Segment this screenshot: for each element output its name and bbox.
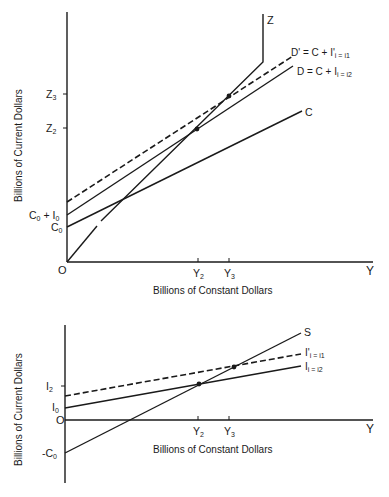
- i2-label: I2: [46, 381, 53, 393]
- equilibrium-point-y2: [195, 127, 200, 132]
- bottom-y2-label: Y2: [193, 426, 204, 438]
- top-x-axis-title: Billions of Constant Dollars: [153, 285, 273, 296]
- bottom-equilibrium-y3: [232, 365, 237, 370]
- c-curve-label: C: [305, 107, 313, 118]
- s-line: [65, 333, 301, 453]
- bottom-y3-label: Y3: [224, 426, 235, 438]
- d-prime-curve-label: D' = C + I'i = i1: [291, 48, 350, 59]
- c-line: [67, 111, 302, 227]
- bottom-x-axis-title: Billions of Constant Dollars: [153, 444, 273, 455]
- top-y2-label: Y2: [193, 268, 204, 280]
- top-origin-label: O: [58, 265, 67, 276]
- equilibrium-point-y3: [227, 94, 232, 99]
- d-curve-label: D = C + Ii = i2: [297, 67, 352, 78]
- top-y-axis-title: Billions of Current Dollars: [13, 89, 24, 202]
- s-curve-label: S: [304, 327, 311, 338]
- bottom-x-end-label: Y: [366, 423, 374, 435]
- i0-label: I0: [52, 402, 59, 414]
- z2-label: Z2: [46, 123, 56, 135]
- z3-label: Z3: [46, 89, 56, 101]
- bottom-equilibrium-y2: [197, 382, 202, 387]
- i-prime-curve-label: I'i = i1: [305, 348, 325, 359]
- i-line: [65, 366, 301, 408]
- bottom-origin-label: O: [56, 415, 65, 426]
- bottom-y-axis-title: Billions of Current Dollars: [13, 353, 24, 466]
- z-curve-label: Z: [267, 15, 274, 26]
- neg-c0-label: -C0: [42, 448, 57, 460]
- d-line: [67, 66, 293, 215]
- d-prime-line: [67, 56, 293, 202]
- top-x-end-label: Y: [366, 265, 374, 277]
- c0-label: C0: [51, 222, 63, 234]
- z-line-lower: [67, 226, 97, 262]
- top-y3-label: Y3: [224, 268, 235, 280]
- i-curve-label: Ii = i2: [305, 362, 323, 373]
- z-line: [101, 14, 263, 221]
- diagram: Billions of Current Dollars Billions of …: [0, 0, 389, 497]
- i-prime-line: [65, 354, 301, 396]
